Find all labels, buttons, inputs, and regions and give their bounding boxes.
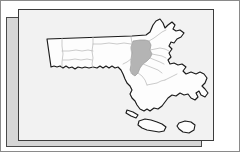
island-marthas-vineyard — [138, 119, 166, 132]
front-panel — [18, 9, 214, 141]
island-elizabeth-chain — [126, 110, 138, 118]
state-outline-massachusetts — [47, 19, 208, 111]
island-nantucket — [177, 121, 195, 133]
map-figure — [0, 0, 240, 152]
massachusetts-map — [19, 10, 215, 142]
